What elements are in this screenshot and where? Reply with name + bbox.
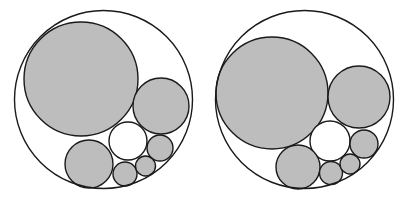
gray-inner-circle <box>216 37 328 149</box>
gray-inner-circle <box>328 66 390 128</box>
gray-inner-circle <box>24 22 138 136</box>
left-circle-packing <box>15 11 193 189</box>
right-circle-packing <box>216 11 394 190</box>
gray-inner-circle <box>350 130 378 158</box>
gray-inner-circle <box>113 162 137 186</box>
white-inner-circle <box>109 122 147 160</box>
circle-packing-diagram <box>0 0 405 205</box>
gray-inner-circle <box>133 78 189 134</box>
gray-inner-circle <box>65 140 113 188</box>
gray-inner-circle <box>276 145 320 189</box>
